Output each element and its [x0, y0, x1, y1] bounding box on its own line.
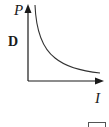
- x-axis-label: I: [95, 91, 100, 106]
- y-axis-arrow-icon: [25, 4, 32, 13]
- graph-canvas: [0, 0, 109, 127]
- option-label: D: [8, 35, 18, 49]
- y-axis-label: P: [14, 3, 23, 18]
- x-axis-arrow-icon: [95, 78, 104, 85]
- inverse-curve: [35, 5, 100, 73]
- diagram-figure: P D I: [0, 0, 109, 127]
- answer-box-fragment: [88, 122, 106, 127]
